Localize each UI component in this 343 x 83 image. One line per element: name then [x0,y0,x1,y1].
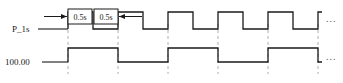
timing-diagram: 0.5s0.5s P_1s 100.00 ... ... [0,0,343,83]
dimension-label-1: 0.5s [99,13,112,22]
dimension-label-0: 0.5s [73,13,86,22]
signal-label-p1s: P_1s [12,24,30,34]
ellipsis-top: ... [326,13,337,24]
signal-label-100-00: 100.00 [5,57,30,67]
ellipsis-bottom: ... [326,51,337,62]
